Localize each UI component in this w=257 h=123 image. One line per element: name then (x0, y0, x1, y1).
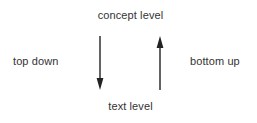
top-down-arrow-head (97, 78, 104, 90)
arrows-layer (0, 0, 257, 123)
bottom-up-arrow-head (157, 36, 164, 48)
level-direction-diagram: concept level top down bottom up text le… (0, 0, 257, 123)
top-down-arrow-icon (97, 36, 104, 90)
bottom-up-arrow-icon (157, 36, 164, 90)
